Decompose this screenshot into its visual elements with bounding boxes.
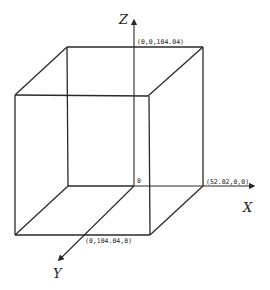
x-end-coordinate: (52.02,0,0) <box>206 178 249 186</box>
front-top-edge <box>15 95 148 96</box>
front-face <box>15 95 150 235</box>
y-axis-label: Y <box>53 266 63 281</box>
back-left-edge <box>67 47 68 186</box>
depth-edge-bottom-left <box>15 186 68 235</box>
depth-edge-top-right <box>148 47 203 96</box>
z-end-coordinate: (0,0,104.04) <box>137 38 184 46</box>
depth-edge-bottom-right <box>150 186 203 235</box>
y-axis <box>60 186 134 259</box>
back-face <box>67 47 203 186</box>
cube-svg: Z X Y (0,0,104.04) (52.02,0,0) (0,104.04… <box>0 0 270 290</box>
y-end-coordinate: (0,104.04,0) <box>85 237 132 245</box>
depth-edge-top-left <box>15 47 67 95</box>
x-axis-label: X <box>242 200 253 215</box>
depth-edges <box>15 47 203 235</box>
z-axis-label: Z <box>118 12 129 27</box>
origin-label: 0 <box>137 177 141 185</box>
axes <box>60 22 252 259</box>
front-right-edge <box>149 96 150 235</box>
cube-diagram: Z X Y (0,0,104.04) (52.02,0,0) (0,104.04… <box>0 0 270 290</box>
